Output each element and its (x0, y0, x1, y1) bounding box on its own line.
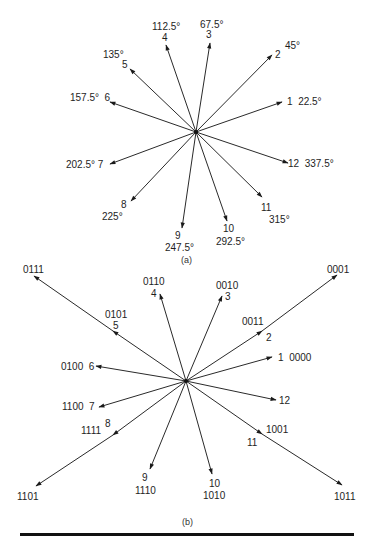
vector-b-5-arrow (113, 331, 186, 381)
label-b-6: 0100 6 (61, 361, 94, 372)
label-a-2-angle: 45° (285, 40, 300, 51)
label-b-12: 12 (279, 395, 290, 406)
vectors-part-a (110, 43, 288, 228)
label-b-1: 1 0000 (278, 352, 311, 363)
label-b-4-index: 4 (151, 288, 157, 299)
label-b-11-code: 1001 (266, 424, 288, 435)
vector-a-11-arrow (196, 132, 262, 197)
label-b-10-code: 1010 (203, 490, 225, 501)
center-dot-a (194, 130, 198, 134)
label-a-7: 202.5° 7 (66, 159, 103, 170)
label-a-8-index: 8 (121, 199, 127, 210)
label-a-1: 1 22.5° (287, 96, 322, 107)
vector-a-10-arrow (196, 132, 227, 221)
label-a-8-angle: 225° (102, 211, 123, 222)
caption-b: (b) (182, 517, 193, 527)
label-b-7: 1100 7 (62, 401, 95, 412)
vector-b-11-outer-arrow (262, 434, 342, 485)
vector-b-4-arrow (160, 294, 186, 381)
vector-b-2-outer-arrow (262, 275, 337, 331)
label-a-5-angle: 135° (103, 49, 124, 60)
vector-a-5-arrow (130, 69, 196, 132)
label-b-2-code: 0011 (242, 316, 264, 327)
label-a-9-angle: 247.5° (165, 242, 194, 253)
label-b-4-code: 0110 (143, 276, 165, 287)
label-a-10-angle: 292.5° (216, 236, 245, 247)
vectors-part-b (34, 275, 342, 486)
label-a-6: 157.5° 6 (70, 92, 110, 103)
vector-b-10-arrow (186, 381, 212, 474)
vector-b-8-outer-arrow (36, 435, 113, 486)
label-b-outer-1011: 1011 (334, 491, 356, 502)
label-a-12: 12 337.5° (288, 158, 334, 169)
vector-a-1-arrow (196, 102, 282, 132)
caption-a: (a) (181, 255, 192, 265)
label-a-4-angle: 112.5° (152, 21, 180, 32)
label-b-8-index: 8 (105, 418, 111, 429)
label-b-outer-0001: 0001 (327, 264, 349, 275)
label-a-11-index: 11 (261, 202, 271, 213)
label-b-9-index: 9 (142, 472, 148, 483)
vector-a-9-arrow (182, 132, 196, 228)
vector-a-4-arrow (166, 45, 196, 132)
label-a-2-index: 2 (275, 49, 281, 60)
label-b-3-code: 0010 (216, 280, 238, 291)
label-a-3-index: 3 (206, 29, 212, 40)
bottom-rule (20, 533, 354, 536)
label-b-outer-0111: 0111 (23, 264, 44, 275)
vector-a-7-arrow (110, 132, 196, 164)
vector-b-7-arrow (99, 381, 186, 407)
label-b-5-index: 5 (113, 320, 119, 331)
vector-a-3-arrow (196, 43, 210, 132)
vector-a-12-arrow (196, 132, 288, 163)
label-a-10-index: 10 (223, 223, 234, 234)
label-a-4-index: 4 (162, 32, 168, 43)
vector-b-2-arrow (186, 331, 262, 381)
label-b-5-code: 0101 (105, 309, 127, 320)
vector-b-6-arrow (96, 366, 186, 381)
label-b-2-index: 2 (266, 332, 272, 343)
vector-b-3-arrow (186, 296, 222, 381)
vector-a-8-arrow (131, 132, 196, 201)
phasor-diagram (0, 0, 371, 538)
label-b-8-code: 1111 (81, 425, 101, 436)
label-b-10-index: 10 (209, 478, 220, 489)
vector-b-5-outer-arrow (34, 276, 113, 331)
vector-a-2-arrow (196, 55, 272, 132)
label-b-11-index: 11 (247, 437, 257, 448)
label-b-outer-1101: 1101 (17, 491, 39, 502)
label-a-9-index: 9 (175, 230, 181, 241)
vector-a-6-arrow (110, 102, 196, 132)
label-b-9-code: 1110 (135, 485, 156, 496)
label-a-5-index: 5 (122, 59, 128, 70)
center-dot-b (184, 379, 188, 383)
vector-b-1-arrow (186, 357, 272, 381)
label-a-11-angle: 315° (269, 214, 290, 225)
label-b-3-index: 3 (225, 291, 231, 302)
